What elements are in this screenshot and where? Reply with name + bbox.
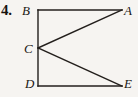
vertex-label-B: B (22, 4, 30, 17)
segment-CE (38, 48, 122, 86)
segment-CA (38, 10, 122, 48)
vertex-label-A: A (124, 4, 132, 17)
vertex-label-C: C (24, 42, 33, 55)
geometry-figure: 4. B A C D E (0, 0, 138, 97)
vertex-label-E: E (124, 77, 132, 90)
vertex-label-D: D (25, 77, 34, 90)
diagram-canvas (0, 0, 138, 97)
